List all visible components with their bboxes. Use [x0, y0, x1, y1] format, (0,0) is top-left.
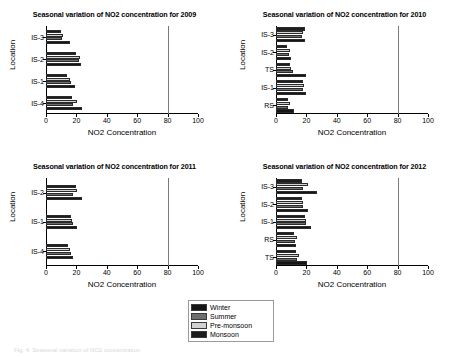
legend-swatch [191, 322, 207, 329]
x-tick-label: 100 [422, 269, 434, 276]
plot-area: IS-3IS-2IS-1RSTS020406080100NO2 Concentr… [276, 178, 428, 266]
bar-groups [276, 178, 428, 266]
x-tick-label: 0 [274, 269, 278, 276]
bar [276, 254, 299, 257]
y-tick-mark [43, 103, 46, 104]
legend-label: Pre-monsoon [210, 322, 252, 329]
y-tick-mark [43, 37, 46, 38]
bar [276, 92, 306, 95]
bar [46, 63, 81, 66]
bar [276, 244, 296, 247]
bar [276, 57, 291, 60]
bar [276, 209, 308, 212]
bar [46, 59, 79, 62]
bar-group [276, 197, 428, 213]
y-tick-mark [273, 105, 276, 106]
bar [276, 205, 303, 208]
bar [46, 81, 71, 84]
bar [276, 219, 306, 222]
bar-group [276, 80, 428, 96]
y-tick-mark [273, 52, 276, 53]
bar-groups [46, 26, 198, 114]
bar [46, 78, 70, 81]
bar [276, 63, 290, 66]
bar [276, 53, 289, 56]
bar-group [46, 29, 198, 45]
bar-groups [46, 178, 198, 266]
bar [46, 74, 67, 77]
bar [46, 197, 82, 200]
legend-label: Monsoon [210, 331, 239, 338]
bar [276, 179, 302, 182]
bar [46, 248, 70, 251]
chart-panel: Seasonal variation of NO2 concentration … [0, 8, 229, 158]
bar [276, 67, 291, 70]
plot-area: IS-3IS-2IS-1IS-4020406080100NO2 Concentr… [46, 26, 198, 114]
bar-group [46, 244, 198, 260]
x-tick-label: 80 [394, 117, 402, 124]
bar [276, 187, 303, 190]
x-axis-label: NO2 Concentration [46, 280, 198, 289]
plot-area: IS-2IS-1IS-4020406080100NO2 Concentratio… [46, 178, 198, 266]
bar [276, 250, 296, 253]
bar [276, 222, 306, 225]
y-tick-mark [273, 240, 276, 241]
chart-panel: Seasonal variation of NO2 concentration … [230, 8, 459, 158]
bar-group [276, 62, 428, 78]
x-tick-label: 100 [192, 269, 204, 276]
x-tick-label: 20 [72, 269, 80, 276]
bar [276, 236, 297, 239]
bar [46, 219, 72, 222]
legend-item: Monsoon [191, 330, 270, 339]
bar [276, 80, 303, 83]
bar [46, 34, 63, 37]
bar [276, 191, 317, 194]
bar [276, 102, 290, 105]
bar [276, 201, 303, 204]
bar-group [46, 95, 198, 111]
legend-item: Summer [191, 312, 270, 321]
x-tick-label: 40 [333, 117, 341, 124]
legend-swatch [191, 331, 207, 338]
y-tick-mark [273, 88, 276, 89]
legend-swatch [191, 313, 207, 320]
x-ticks: 020406080100 [46, 114, 198, 126]
chart-title: Seasonal variation of NO2 concentration … [0, 162, 229, 171]
bar [276, 70, 293, 73]
legend-label: Summer [210, 313, 236, 320]
x-tick-label: 80 [394, 269, 402, 276]
bar-group [46, 51, 198, 67]
bar-group [46, 185, 198, 201]
x-tick-label: 80 [164, 269, 172, 276]
x-tick-label: 60 [363, 269, 371, 276]
y-tick-mark [43, 193, 46, 194]
bar [46, 185, 76, 188]
x-axis-label: NO2 Concentration [276, 280, 428, 289]
bar-group [276, 179, 428, 195]
legend-swatch [191, 304, 207, 311]
bar [276, 98, 288, 101]
bar [46, 107, 82, 110]
bar [46, 37, 62, 40]
bar-group [276, 45, 428, 61]
y-axis-label: Location [238, 40, 247, 70]
x-tick-label: 0 [44, 117, 48, 124]
bar [46, 52, 76, 55]
y-tick-mark [43, 222, 46, 223]
x-ticks: 020406080100 [276, 266, 428, 278]
x-tick-label: 40 [333, 269, 341, 276]
x-tick-label: 40 [103, 117, 111, 124]
bar [276, 35, 302, 38]
bar-group [276, 27, 428, 43]
bar [276, 84, 304, 87]
bar [46, 256, 73, 259]
bar [276, 215, 305, 218]
y-tick-mark [43, 81, 46, 82]
chart-title: Seasonal variation of NO2 concentration … [230, 162, 459, 171]
bar [276, 261, 307, 264]
x-ticks: 020406080100 [276, 114, 428, 126]
bar [276, 45, 287, 48]
bar [276, 240, 295, 243]
bar [276, 258, 297, 261]
bar [276, 88, 303, 91]
